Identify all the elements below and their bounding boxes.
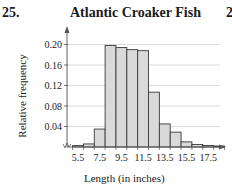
x-tick-label: 7.5: [93, 152, 106, 163]
histogram-bar: [159, 124, 170, 147]
y-tick-label: 0.20: [45, 39, 63, 50]
histogram-bar: [181, 142, 192, 147]
histogram-chart: 0.040.080.120.160.205.57.59.511.513.515.…: [0, 0, 232, 189]
y-tick-label: 0.04: [45, 121, 63, 132]
x-tick-label: 13.5: [156, 152, 174, 163]
x-tick-label: 11.5: [135, 152, 152, 163]
histogram-bar: [127, 50, 138, 147]
histogram-bar: [83, 144, 94, 147]
x-axis-arrow-icon: [219, 145, 226, 150]
y-tick-label: 0.08: [45, 101, 63, 112]
histogram-bar: [105, 46, 116, 147]
histogram-bar: [138, 51, 149, 147]
histogram-bar: [170, 132, 181, 147]
histogram-bar: [116, 48, 127, 147]
histogram-bar: [94, 129, 105, 147]
y-axis-arrow-icon: [65, 26, 70, 33]
x-tick-label: 5.5: [72, 152, 85, 163]
x-tick-label: 17.5: [199, 152, 217, 163]
y-tick-label: 0.12: [45, 80, 63, 91]
y-axis-label: Relative frequency: [16, 46, 28, 146]
histogram-bar: [149, 92, 160, 147]
x-tick-label: 15.5: [178, 152, 196, 163]
x-axis-label: Length (in inches): [84, 172, 165, 184]
y-tick-label: 0.16: [45, 60, 63, 71]
x-tick-label: 9.5: [115, 152, 128, 163]
